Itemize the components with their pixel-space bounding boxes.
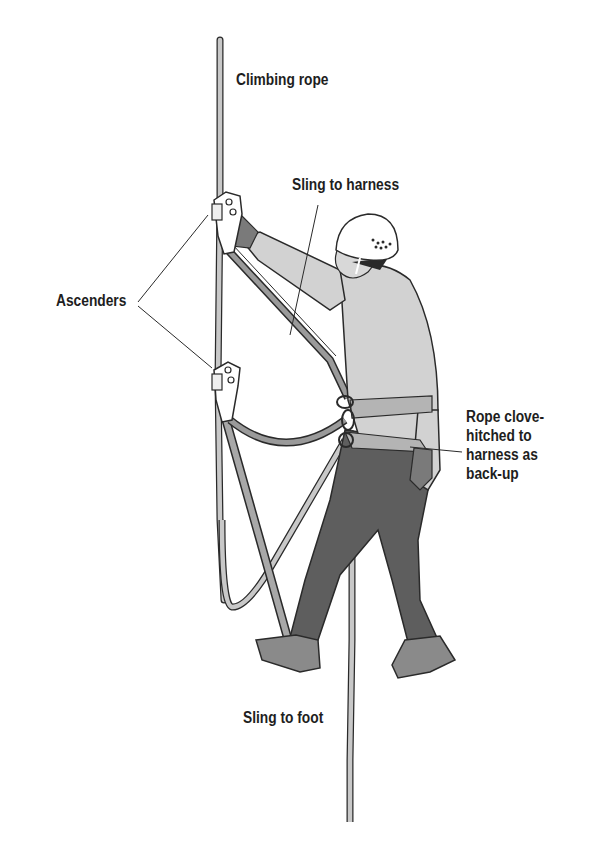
- diagram-canvas: Climbing rope Sling to harness Ascenders…: [0, 0, 596, 867]
- label-sling-to-harness: Sling to harness: [292, 175, 399, 194]
- label-climbing-rope: Climbing rope: [236, 70, 329, 89]
- label-ascenders: Ascenders: [56, 291, 126, 310]
- ascenders-leader-upper: [138, 215, 208, 302]
- label-sling-to-foot: Sling to foot: [243, 708, 323, 727]
- label-rope-clove-hitched: Rope clove- hitched to harness as back-u…: [466, 407, 544, 483]
- climber-boots: [256, 635, 455, 678]
- ascenders-leader-lower: [138, 306, 212, 368]
- climbing-rope: [218, 40, 224, 600]
